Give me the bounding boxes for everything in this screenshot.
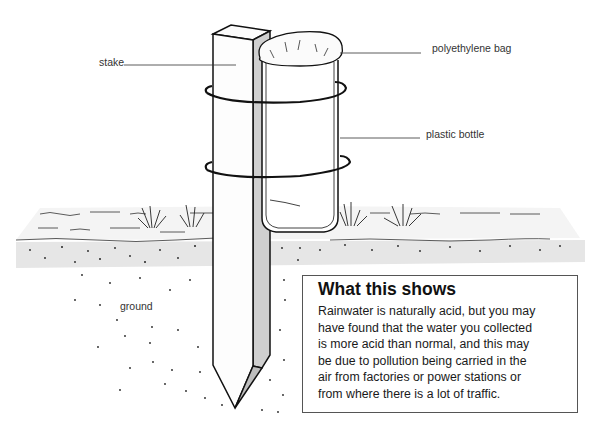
polyethylene-bag bbox=[259, 32, 342, 66]
info-box-body: Rainwater is naturally acid, but you may… bbox=[318, 303, 576, 402]
info-line: have found that the water you collected bbox=[318, 321, 532, 335]
info-box: What this shows Rainwater is naturally a… bbox=[302, 275, 578, 413]
label-polyethylene-bag: polyethylene bag bbox=[432, 42, 511, 54]
info-line: from where there is a lot of traffic. bbox=[318, 387, 500, 401]
info-box-title: What this shows bbox=[318, 278, 577, 300]
info-line: be due to pollution being carried in the bbox=[318, 354, 527, 368]
label-stake: stake bbox=[99, 56, 124, 68]
soil-band bbox=[16, 240, 585, 268]
plastic-bottle bbox=[262, 60, 338, 232]
label-plastic-bottle: plastic bottle bbox=[426, 128, 484, 140]
info-line: is more acid than normal, and this may bbox=[318, 337, 529, 351]
info-line: air from factories or power stations or bbox=[318, 370, 521, 384]
label-ground: ground bbox=[120, 300, 153, 312]
info-line: Rainwater is naturally acid, but you may bbox=[318, 304, 535, 318]
